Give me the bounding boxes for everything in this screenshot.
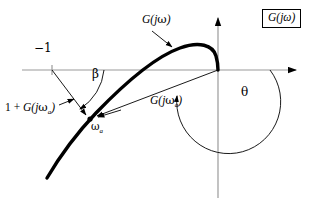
theta-angle-arc — [177, 70, 281, 154]
omega-a-point-label: ωa — [91, 121, 103, 135]
vector-g-label: G(jωa) — [150, 95, 182, 109]
theta-angle-label: θ — [241, 86, 248, 98]
curve-name-label: G(jω) — [142, 14, 171, 26]
critical-point-label: −1 — [34, 42, 52, 54]
nyquist-diagram: −1 G(jω) β θ 1 + G(jωa) G(jωa) ωa G(jω) — [0, 0, 316, 203]
one-plus-g-label-leader — [59, 99, 74, 105]
boxed-figure-title: G(jω) — [262, 9, 301, 28]
beta-angle-label: β — [92, 68, 99, 80]
vector-one-plus-g-label: 1 + G(jωa) — [5, 102, 55, 116]
curve-label-leader — [152, 31, 172, 47]
frequency-response-curve — [47, 45, 218, 178]
